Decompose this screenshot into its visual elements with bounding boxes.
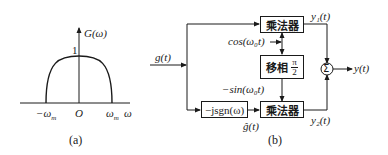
fraction-numerator: π	[291, 58, 298, 68]
neg-cutoff-label: −ωm	[36, 108, 56, 122]
hilbert-transform-block: −jsgn(ω)	[201, 101, 248, 118]
output-signal-label: y(t)	[354, 63, 369, 74]
phase-shifter-text: 移相	[266, 59, 288, 75]
y-axis-label: G(ω)	[84, 28, 107, 39]
x-axis-label: ω	[124, 108, 132, 119]
y2-label: y₂(t)	[311, 115, 330, 126]
caption-a: (a)	[69, 133, 82, 148]
phase-shifter-block: 移相 π 2	[260, 55, 304, 79]
pos-cutoff-label: ωm	[106, 108, 119, 122]
neg-cutoff-text: −ω	[36, 107, 51, 119]
summing-junction-symbol: Σ	[323, 63, 329, 74]
cos-carrier-label: cos(ω₀t)	[228, 36, 265, 47]
multiplier-bottom-block: 乘法器	[260, 101, 304, 118]
fraction-denominator: 2	[292, 68, 297, 77]
multiplier-top-block: 乘法器	[260, 16, 304, 33]
neg-cutoff-sub: m	[51, 114, 56, 122]
caption-b: (b)	[268, 133, 282, 148]
diagram-lines	[0, 0, 388, 155]
y1-label: y₁(t)	[311, 11, 330, 22]
origin-label: O	[75, 108, 83, 119]
neg-sin-carrier-label: −sin(ω₀t)	[222, 84, 264, 95]
pos-cutoff-sub: m	[114, 114, 119, 122]
input-signal-label: g(t)	[155, 52, 171, 63]
hilbert-output-label: ĝ(t)	[243, 121, 259, 132]
peak-value-label: 1	[72, 45, 78, 56]
pos-cutoff-text: ω	[106, 107, 114, 119]
pi-over-2-fraction: π 2	[291, 58, 298, 77]
